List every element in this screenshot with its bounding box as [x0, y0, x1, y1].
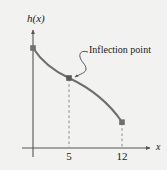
curve-end-marker [119, 119, 125, 125]
y-axis-label: h(x) [27, 13, 45, 24]
x-tick-label-5: 5 [62, 151, 76, 162]
inflection-point-graph-figure: h(x) x 5 12 Inflection point [0, 0, 167, 170]
function-curve [33, 48, 122, 122]
curve-start-marker [30, 45, 36, 51]
graph-canvas [0, 0, 167, 170]
inflection-point-annotation-label: Inflection point [89, 45, 151, 55]
inflection-leader-line [75, 51, 88, 77]
x-axis-label: x [156, 142, 160, 152]
inflection-point-marker [66, 75, 72, 81]
x-tick-label-12: 12 [113, 151, 131, 162]
